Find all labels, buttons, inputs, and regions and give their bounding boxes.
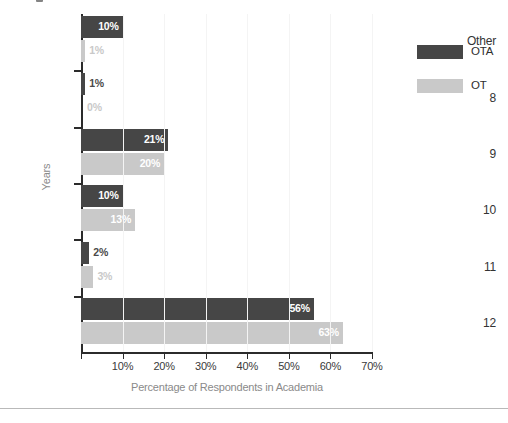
legend-swatch-ot — [417, 79, 463, 93]
bar-ot-other — [81, 40, 85, 62]
bar-value-label: 3% — [97, 270, 112, 282]
y-axis-category-label: 9 — [434, 147, 508, 161]
x-axis-title: Percentage of Respondents in Academia — [81, 381, 373, 393]
x-axis-tick — [247, 352, 248, 359]
x-axis-tick — [164, 352, 165, 359]
plot-area: 10%1%1%0%21%20%10%13%2%3%56%63% — [81, 14, 372, 352]
bar-ota-8 — [81, 73, 85, 95]
legend-label-ot: OT — [471, 79, 487, 91]
gridline — [247, 14, 248, 352]
y-axis-tick — [74, 183, 83, 185]
y-axis-category-label: 10 — [434, 203, 508, 217]
y-axis-tick — [74, 296, 83, 298]
bar-value-label: 20% — [134, 157, 160, 169]
legend-swatch-ota — [417, 45, 463, 59]
bar-value-label: 0% — [87, 101, 102, 113]
x-axis-tick — [372, 352, 373, 359]
bar-value-label: 63% — [313, 326, 339, 338]
x-axis-tick — [289, 352, 290, 359]
gridline — [206, 14, 207, 352]
bar-value-label: 1% — [89, 44, 104, 56]
x-axis-tick — [81, 352, 82, 359]
y-axis-tick — [74, 127, 83, 129]
bar-ota-11 — [81, 242, 89, 264]
bar-chart: 10%1%1%0%21%20%10%13%2%3%56%63% 10%20%30… — [0, 0, 508, 423]
y-axis-category-label: 11 — [434, 260, 508, 274]
gridline — [372, 14, 373, 352]
bar-value-label: 10% — [93, 20, 119, 32]
bar-value-label: 56% — [284, 302, 310, 314]
gridline — [123, 14, 124, 352]
y-axis-tick — [74, 239, 83, 241]
bar-ot-12 — [81, 322, 343, 344]
gridline — [289, 14, 290, 352]
bar-value-label: 10% — [93, 189, 119, 201]
y-axis-category-label: 12 — [434, 316, 508, 330]
gridline — [164, 14, 165, 352]
x-axis-tick — [330, 352, 331, 359]
bar-ota-12 — [81, 298, 314, 320]
x-axis-tick-label: 70% — [347, 360, 397, 372]
footer-divider — [0, 408, 508, 409]
bar-value-label: 1% — [89, 77, 104, 89]
cropped-text-artifact — [36, 0, 43, 2]
y-axis-tick — [74, 70, 83, 72]
gridline — [330, 14, 331, 352]
bar-value-label: 13% — [105, 213, 131, 225]
x-axis-tick — [123, 352, 124, 359]
y-axis-title: Years — [40, 147, 52, 207]
x-axis-line — [81, 352, 373, 354]
bar-ot-11 — [81, 266, 93, 288]
x-axis-tick — [206, 352, 207, 359]
bar-value-label: 21% — [138, 133, 164, 145]
legend-label-ota: OTA — [471, 45, 493, 57]
bar-value-label: 2% — [93, 246, 108, 258]
